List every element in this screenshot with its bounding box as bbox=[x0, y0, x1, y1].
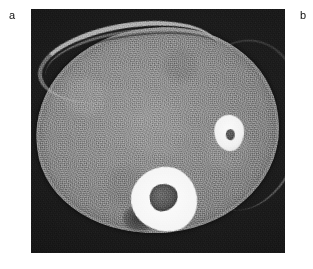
panel-label-a: a bbox=[9, 10, 15, 21]
ct-scan-image-panel-a bbox=[31, 9, 285, 253]
lesion-small-core bbox=[225, 129, 235, 141]
panel-label-b: b bbox=[300, 10, 306, 21]
lesion-large-core bbox=[148, 182, 179, 213]
figure-root: a b bbox=[0, 0, 313, 269]
